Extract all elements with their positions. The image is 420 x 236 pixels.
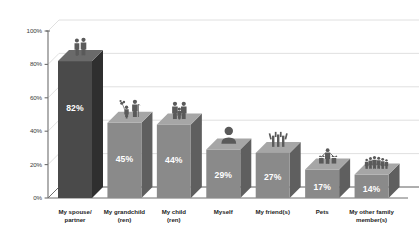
single-person-bust-icon (221, 127, 236, 144)
y-axis-line (45, 31, 50, 198)
chart-canvas (0, 0, 420, 236)
bar-value-label: 82% (58, 103, 92, 113)
bar (206, 139, 251, 198)
y-axis-tick-label: 60% (2, 94, 42, 101)
parent-child-icon (172, 102, 186, 120)
bar-chart: 0%20%40%60%80%100% My spouse/ partnerMy … (0, 0, 420, 236)
bar-value-label: 17% (305, 182, 339, 192)
x-axis-category-label: My other family member(s) (338, 208, 406, 223)
y-axis-tick-label: 0% (2, 194, 42, 201)
bar (256, 142, 301, 198)
y-axis-tick-label: 100% (2, 27, 42, 34)
bar (305, 159, 350, 198)
bar-value-label: 29% (206, 170, 240, 180)
bar-value-label: 45% (107, 154, 141, 164)
y-axis-tick-label: 40% (2, 127, 42, 134)
bar-value-label: 27% (256, 172, 290, 182)
person-with-pets-icon (319, 148, 338, 164)
bar (58, 50, 103, 198)
y-axis-tick-label: 80% (2, 60, 42, 67)
bar-value-label: 44% (157, 155, 191, 165)
bar-value-label: 14% (355, 184, 389, 194)
y-axis-tick-label: 20% (2, 161, 42, 168)
